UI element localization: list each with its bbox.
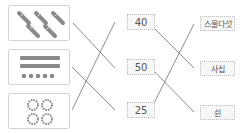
line-pic2-to-25 [72,67,115,110]
line-25-to-seumuldaseot [150,24,194,111]
ten-stick-bundle-icon [9,6,71,42]
picture-box-2 [8,49,70,85]
word-box-swin[interactable]: 쉰 [200,105,235,120]
line-pic1-to-50 [73,23,115,68]
line-pic3-to-40 [72,22,115,110]
bead-ring-icon [9,94,71,130]
number-box-40[interactable]: 40 [127,14,155,30]
picture-box-1 [8,5,70,41]
line-50-to-swin [150,67,194,112]
bead-bar-icon [9,50,71,86]
word-box-sasip[interactable]: 사십 [200,61,235,76]
number-box-25[interactable]: 25 [127,102,155,118]
word-box-seumuldaseot[interactable]: 스물다섯 [200,16,235,31]
line-40-to-sasip [150,24,194,68]
number-box-50[interactable]: 50 [127,59,155,75]
picture-box-3 [8,93,70,129]
